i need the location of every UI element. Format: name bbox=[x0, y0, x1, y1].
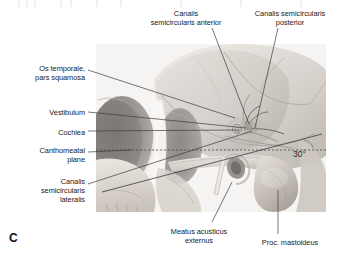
scan-artifact bbox=[70, 0, 72, 7]
figure-part-letter: C bbox=[9, 231, 18, 245]
skull-lateral-radiograph bbox=[96, 44, 326, 212]
label-meatus-acusticus-externus: Meatus acusticus externus bbox=[152, 227, 246, 245]
label-canthomeatal-plane: Canthomeatal plane bbox=[3, 146, 85, 164]
label-canalis-semicircularis-posterior: Canalis semicircularis posterior bbox=[240, 9, 340, 27]
scan-artifact bbox=[300, 0, 302, 7]
anatomy-figure-panel: Canalis semicircularis anterior Canalis … bbox=[0, 0, 342, 265]
label-cochlea: Cochlea bbox=[3, 128, 85, 137]
scan-artifact bbox=[180, 0, 182, 7]
label-os-temporale-pars-squamosa: Os temporale, pars squamosa bbox=[3, 64, 85, 82]
label-proc-mastoideus: Proc. mastoideus bbox=[244, 238, 336, 247]
angle-annotation-30-degrees: 30° bbox=[293, 149, 306, 159]
scan-artifact bbox=[96, 0, 98, 7]
scan-artifact bbox=[26, 0, 28, 7]
scan-artifact bbox=[240, 0, 242, 7]
scan-artifact bbox=[34, 0, 36, 7]
label-canalis-semicircularis-lateralis: Canalis semicircularis lateralis bbox=[3, 177, 85, 205]
scan-artifact bbox=[120, 0, 122, 7]
label-canalis-semicircularis-anterior: Canalis semicircularis anterior bbox=[134, 9, 238, 27]
scan-artifact bbox=[18, 0, 20, 7]
label-vestibulum: Vestibulum bbox=[3, 108, 85, 117]
scan-artifact bbox=[60, 0, 62, 7]
